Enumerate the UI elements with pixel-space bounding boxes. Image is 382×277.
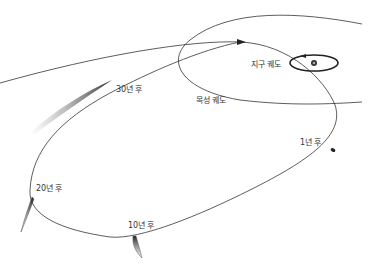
comet-1-year xyxy=(330,147,336,153)
after-10-years-label: 10년 후 xyxy=(128,219,154,230)
orbit-direction-arrow xyxy=(237,39,246,45)
comet-10-years xyxy=(133,236,142,258)
earth-orbit-arrow xyxy=(300,54,306,58)
comet-30-years xyxy=(30,80,112,136)
after-30-years-label: 30년 후 xyxy=(116,83,142,94)
comet-orbit xyxy=(0,42,337,237)
jupiter-orbit-label: 목성 궤도 xyxy=(196,94,226,105)
comet-orbit-diagram: 지구 궤도 목성 궤도 30년 후 20년 후 10년 후 1년 후 xyxy=(0,0,382,277)
earth-orbit-label: 지구 궤도 xyxy=(251,58,281,69)
comet-20-years xyxy=(21,197,34,232)
after-1-year-label: 1년 후 xyxy=(300,136,321,147)
after-20-years-label: 20년 후 xyxy=(36,182,62,193)
sun-core xyxy=(313,62,316,65)
orbit-svg xyxy=(0,0,382,277)
